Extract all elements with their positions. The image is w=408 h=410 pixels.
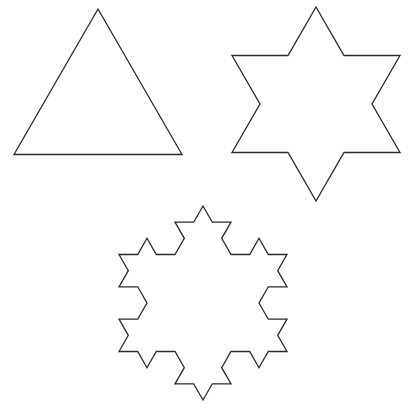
koch-snowflake-iteration-2 bbox=[119, 206, 287, 400]
diagram-svg bbox=[0, 0, 408, 410]
koch-star-iteration-1 bbox=[232, 7, 400, 201]
koch-snowflake-diagram bbox=[0, 0, 408, 410]
koch-triangle-iteration-0 bbox=[14, 9, 182, 155]
